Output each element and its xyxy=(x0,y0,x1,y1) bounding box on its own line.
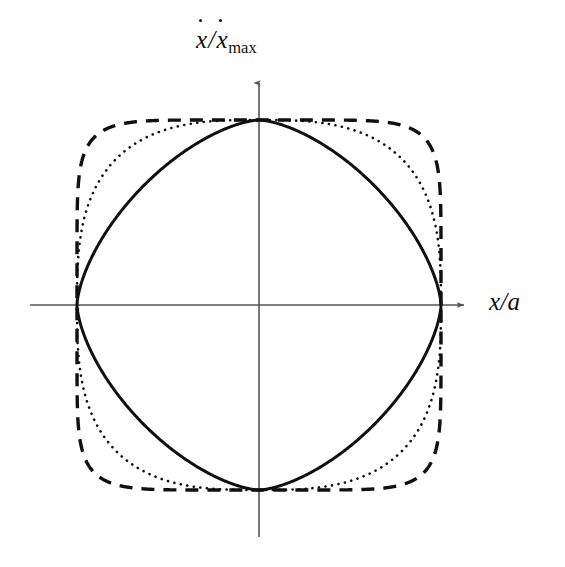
y-axis-label-subscript: max xyxy=(228,38,257,57)
y-axis-label: x/xmax xyxy=(196,26,257,58)
x-axis-label: x/a xyxy=(489,288,520,316)
y-axis-label-numerator-group: x xyxy=(196,26,207,54)
phase-plot-canvas xyxy=(0,0,565,567)
y-axis-label-denominator: x xyxy=(216,26,227,53)
phase-space-figure: x/xmax x/a xyxy=(0,0,565,567)
y-axis-label-numerator: x xyxy=(196,26,207,53)
overdot-icon xyxy=(219,19,222,22)
overdot-icon xyxy=(199,19,202,22)
y-axis-label-denominator-group: x xyxy=(216,26,227,54)
axes-group xyxy=(30,83,464,537)
x-axis-label-text: x/a xyxy=(489,288,520,315)
